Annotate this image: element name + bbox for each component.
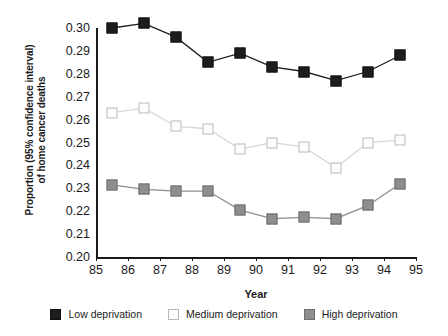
- data-point-marker: [107, 179, 118, 190]
- y-axis-tick-label: 0.20: [66, 251, 90, 264]
- x-axis-tick: [192, 257, 193, 261]
- y-axis-tick-label: 0.26: [66, 113, 90, 126]
- data-point-marker: [139, 18, 150, 29]
- x-axis-tick-label: 93: [345, 264, 359, 277]
- data-point-marker: [203, 57, 214, 68]
- chart-figure: Proportion (95% confidence interval) of …: [0, 0, 448, 336]
- data-point-marker: [235, 48, 246, 59]
- data-point-marker: [363, 137, 374, 148]
- x-axis-tick-label: 95: [409, 264, 423, 277]
- y-axis-tick-label: 0.29: [66, 45, 90, 58]
- x-axis-tick-label: 94: [377, 264, 391, 277]
- legend-swatch-icon: [304, 309, 315, 320]
- data-point-marker: [363, 200, 374, 211]
- data-point-marker: [267, 61, 278, 72]
- y-axis-tick-label: 0.23: [66, 182, 90, 195]
- data-point-marker: [235, 205, 246, 216]
- data-point-marker: [331, 162, 342, 173]
- series-line: [112, 184, 400, 219]
- y-axis-tick-label: 0.21: [66, 228, 90, 241]
- x-axis-tick-label: 91: [281, 264, 295, 277]
- legend-item-label: Low deprivation: [68, 308, 142, 320]
- x-axis-tick-label: 89: [217, 264, 231, 277]
- x-axis-tick: [352, 257, 353, 261]
- x-axis-tick-label: 88: [185, 264, 199, 277]
- y-axis-title: Proportion (95% confidence interval) of …: [24, 10, 48, 250]
- y-axis-tick-label: 0.25: [66, 136, 90, 149]
- y-axis-tick-label: 0.22: [66, 205, 90, 218]
- data-point-marker: [299, 142, 310, 153]
- y-axis-title-line2: of home cancer deaths: [36, 10, 48, 250]
- x-axis-tick-label: 92: [313, 264, 327, 277]
- data-point-marker: [331, 75, 342, 86]
- plot-area: 0.200.210.220.230.240.250.260.270.280.29…: [96, 28, 416, 257]
- chart-legend: Low deprivationMedium deprivationHigh de…: [0, 308, 448, 320]
- x-axis-tick: [256, 257, 257, 261]
- data-point-marker: [395, 135, 406, 146]
- data-point-marker: [299, 66, 310, 77]
- legend-item-label: High deprivation: [322, 308, 398, 320]
- x-axis-tick-label: 85: [89, 264, 103, 277]
- x-axis-title: Year: [96, 288, 416, 300]
- series-line: [112, 23, 400, 80]
- data-point-marker: [299, 212, 310, 223]
- data-point-marker: [363, 66, 374, 77]
- y-axis-tick-label: 0.30: [66, 22, 90, 35]
- data-point-marker: [171, 32, 182, 43]
- y-axis-tick-label: 0.24: [66, 159, 90, 172]
- data-point-marker: [107, 107, 118, 118]
- data-point-marker: [203, 186, 214, 197]
- x-axis-tick: [224, 257, 225, 261]
- legend-item[interactable]: Low deprivation: [50, 308, 142, 320]
- data-point-marker: [267, 213, 278, 224]
- x-axis-tick: [288, 257, 289, 261]
- data-point-marker: [267, 137, 278, 148]
- x-axis-tick: [320, 257, 321, 261]
- data-point-marker: [171, 186, 182, 197]
- legend-item-label: Medium deprivation: [186, 308, 278, 320]
- x-axis-tick: [416, 257, 417, 261]
- x-axis-tick: [160, 257, 161, 261]
- x-axis-tick: [384, 257, 385, 261]
- data-point-marker: [203, 123, 214, 134]
- x-axis-tick: [128, 257, 129, 261]
- y-axis-title-line1: Proportion (95% confidence interval): [24, 10, 36, 250]
- legend-item[interactable]: High deprivation: [304, 308, 398, 320]
- data-point-marker: [139, 184, 150, 195]
- data-point-marker: [139, 103, 150, 114]
- x-axis-tick: [96, 257, 97, 261]
- legend-swatch-icon: [50, 309, 61, 320]
- x-axis-tick-label: 90: [249, 264, 263, 277]
- legend-swatch-icon: [168, 309, 179, 320]
- x-axis-tick-label: 86: [121, 264, 135, 277]
- data-point-marker: [331, 213, 342, 224]
- legend-item[interactable]: Medium deprivation: [168, 308, 278, 320]
- y-axis-tick-label: 0.28: [66, 68, 90, 81]
- data-point-marker: [171, 121, 182, 132]
- y-axis-tick-label: 0.27: [66, 90, 90, 103]
- data-point-marker: [235, 144, 246, 155]
- series-line: [112, 108, 400, 168]
- data-point-marker: [107, 23, 118, 34]
- data-point-marker: [395, 50, 406, 61]
- data-point-marker: [395, 178, 406, 189]
- x-axis-tick-label: 87: [153, 264, 167, 277]
